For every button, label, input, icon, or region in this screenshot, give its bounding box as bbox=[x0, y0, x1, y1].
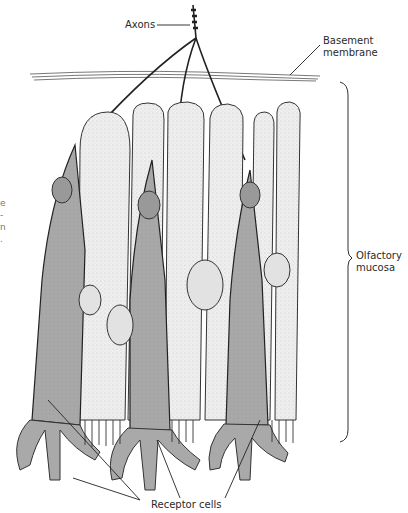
label-axons: Axons bbox=[125, 19, 155, 31]
olfactory-mucosa-illustration bbox=[0, 0, 408, 513]
basement-membrane bbox=[30, 71, 320, 81]
olfactory-mucosa-bracket bbox=[340, 82, 352, 442]
clipped-text-1: e bbox=[0, 198, 6, 208]
dendrites bbox=[17, 420, 288, 490]
clipped-text-4: . bbox=[0, 234, 3, 244]
label-basement-membrane-2: membrane bbox=[323, 47, 378, 59]
label-olfactory-mucosa-1: Olfactory bbox=[356, 250, 402, 262]
clipped-text-3: n bbox=[0, 222, 6, 232]
label-basement-membrane-1: Basement bbox=[323, 35, 374, 47]
label-receptor-cells: Receptor cells bbox=[151, 499, 221, 511]
clipped-text-2: - bbox=[0, 210, 3, 220]
label-olfactory-mucosa-2: mucosa bbox=[356, 262, 395, 274]
